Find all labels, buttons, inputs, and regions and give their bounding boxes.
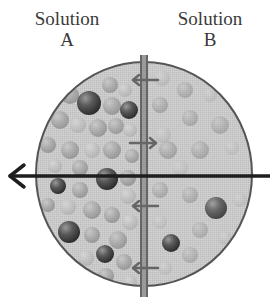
solute-sphere: [162, 234, 180, 252]
solute-sphere: [96, 245, 114, 263]
solute-sphere: [50, 178, 66, 194]
solute-sphere: [96, 168, 118, 190]
osmosis-diagram: [0, 0, 270, 300]
solute-sphere: [58, 221, 80, 243]
solute-sphere: [77, 91, 101, 115]
solute-sphere: [120, 101, 138, 119]
solute-sphere: [205, 197, 227, 219]
